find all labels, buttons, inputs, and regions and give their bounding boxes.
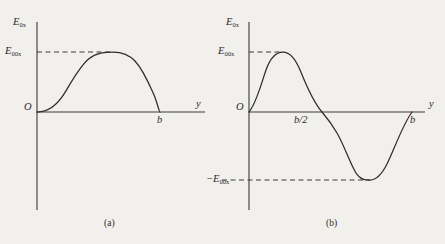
x-tick-label-b-half-b: b/2 — [294, 115, 308, 126]
chart-a-svg — [0, 0, 222, 244]
x-tick-label-b-b: b — [410, 115, 415, 126]
caption-b: (b) — [326, 218, 337, 228]
y-axis-label-a: E0x — [13, 17, 26, 28]
chart-panel-a: E0x E00x O b y (a) — [0, 0, 222, 244]
curve-full-sine-b — [249, 52, 412, 180]
x-axis-label-a: y — [196, 99, 201, 110]
caption-a: (a) — [104, 218, 115, 228]
y-axis-label-b: E0x — [226, 17, 239, 28]
x-tick-label-b-a: b — [157, 115, 162, 126]
chart-panel-b: E0x E00x −E00x O b/2 b y (b) — [222, 0, 445, 244]
curve-half-sine-a — [37, 52, 160, 112]
amplitude-tick-label-b: E00x — [218, 46, 234, 57]
origin-label-a: O — [24, 102, 32, 113]
amplitude-tick-label-a: E00x — [5, 46, 21, 57]
origin-label-b: O — [236, 102, 244, 113]
figure-container: E0x E00x O b y (a) E0x E00x − — [0, 0, 445, 244]
x-axis-label-b: y — [429, 99, 434, 110]
neg-amplitude-tick-label-b: −E00x — [207, 174, 229, 185]
